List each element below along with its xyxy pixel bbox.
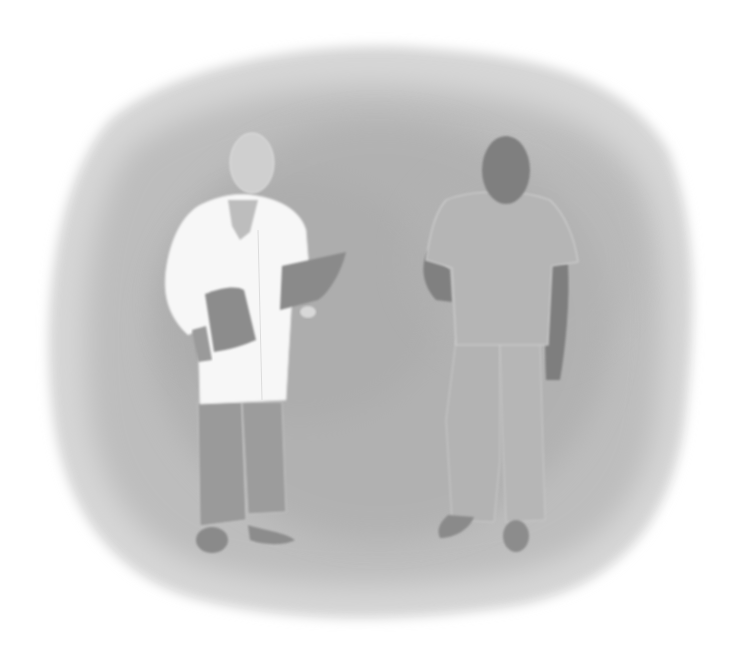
doctor-pants	[198, 402, 246, 526]
nurse-shoe-right	[503, 520, 529, 552]
doctor-head	[230, 133, 274, 193]
nurse-head	[482, 136, 530, 204]
doctor-shoe-left	[196, 527, 228, 553]
background-blob	[49, 46, 693, 618]
nurse-pants	[446, 340, 500, 522]
watercolor-illustration	[0, 0, 729, 650]
illustration-canvas	[0, 0, 729, 650]
